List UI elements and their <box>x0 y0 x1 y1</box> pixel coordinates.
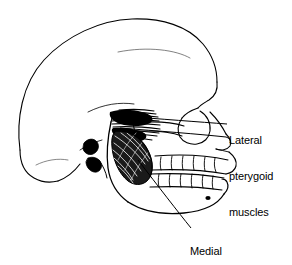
anatomical-figure: Lateral pterygoid muscles Medial pterygo… <box>0 0 292 265</box>
mental-foramen <box>205 196 210 200</box>
lateral-label-line-1: Lateral <box>229 134 273 146</box>
lateral-label-line-2: pterygoid <box>229 170 273 182</box>
medial-label-line-1: Medial <box>190 245 234 257</box>
lateral-pterygoid-muscles-label: Lateral pterygoid muscles <box>229 110 273 242</box>
lateral-label-line-3: muscles <box>229 206 273 218</box>
medial-pterygoid-muscles-label: Medial pterygoid muscles <box>190 221 234 265</box>
